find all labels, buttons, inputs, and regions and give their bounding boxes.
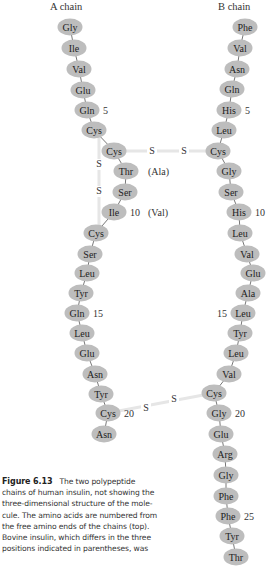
a-chain-residue: Ile bbox=[62, 40, 87, 57]
residue-label: Ile bbox=[109, 207, 120, 218]
figure-label: Figure 6.13 bbox=[2, 477, 52, 486]
residue-label: Ser bbox=[118, 187, 132, 198]
residue-label: Gln bbox=[70, 308, 85, 319]
residue-label: Cys bbox=[210, 146, 226, 157]
b-chain-title: B chain bbox=[218, 1, 251, 12]
residue-label: Gln bbox=[80, 105, 95, 116]
residue-label: Glu bbox=[76, 85, 91, 96]
residue-label: Phe bbox=[219, 491, 235, 502]
residue-number: 20 bbox=[235, 408, 245, 419]
residue-label: Val bbox=[240, 249, 254, 260]
sulfur-atom-label: S bbox=[96, 185, 102, 196]
b-chain-residue: Gly bbox=[217, 163, 242, 180]
residue-label: Tyr bbox=[74, 288, 88, 299]
b-chain-residue: Arg bbox=[213, 446, 238, 463]
residue-number: 10 bbox=[255, 207, 265, 218]
residue-number: 5 bbox=[103, 105, 108, 116]
residue-label: Tyr bbox=[225, 531, 239, 542]
b-chain-residue: His5 bbox=[217, 102, 251, 119]
a-chain-residue: Val bbox=[67, 61, 92, 78]
a-chain-residue: Glu bbox=[71, 82, 96, 99]
a-chain-residue: Cys bbox=[82, 122, 107, 139]
a-chain-residue: Gln5 bbox=[75, 102, 109, 119]
caption-line-0: The two polypeptide bbox=[59, 477, 135, 486]
caption-line-5: Bovine insulin, which differs in the thr… bbox=[2, 533, 151, 542]
a-chain-residue: Thr(Ala) bbox=[114, 163, 170, 180]
b-chain-residue: Ser bbox=[219, 184, 244, 201]
a-chain-residue: Tyr bbox=[69, 285, 94, 302]
residue-label: Leu bbox=[216, 125, 232, 136]
residue-number: 15 bbox=[93, 308, 103, 319]
residue-label: Cys bbox=[100, 408, 116, 419]
caption-line-1: chains of human insulin, not showing the bbox=[2, 488, 154, 497]
a-chain-residue: Asn bbox=[83, 366, 108, 383]
residue-label: Leu bbox=[79, 268, 95, 279]
residue-label: Glu bbox=[80, 348, 95, 359]
residue-label: Val bbox=[222, 369, 236, 380]
a-chain-residue: Gln15 bbox=[65, 305, 104, 322]
residue-label: Phe bbox=[238, 22, 254, 33]
b-chain-residue: Phe bbox=[214, 488, 239, 505]
a-chain-residue: Tyr bbox=[89, 386, 114, 403]
b-chain-residue: Cys bbox=[206, 143, 231, 160]
figure-caption: Figure 6.13 The two polypeptide chains o… bbox=[2, 476, 200, 554]
residue-label: Cys bbox=[88, 228, 104, 239]
sulfur-atom-label: S bbox=[149, 145, 155, 156]
a-chain-residue: Cys bbox=[102, 143, 127, 160]
a-chain-residue: Asn bbox=[92, 426, 117, 443]
residue-number: 15 bbox=[217, 308, 227, 319]
residue-label: Cys bbox=[106, 146, 122, 157]
b-chain-residue: Glu bbox=[209, 426, 234, 443]
caption-line-6: positions indicated in parentheses, was bbox=[2, 544, 148, 553]
residue-label: Val bbox=[72, 64, 86, 75]
b-chain-residue: Phe bbox=[233, 19, 258, 36]
residue-label: Gly bbox=[219, 470, 234, 481]
intrachain-disulfide-bridge bbox=[94, 130, 99, 233]
sulfur-atom-label: S bbox=[181, 145, 187, 156]
bovine-variant-label: (Val) bbox=[148, 207, 168, 219]
b-chain-residue: Val bbox=[217, 366, 242, 383]
b-chain-residue: Leu bbox=[224, 345, 249, 362]
a-chain-residue: Ser bbox=[78, 246, 103, 263]
residue-label: Glu bbox=[214, 429, 229, 440]
a-chain-title: A chain bbox=[50, 1, 83, 12]
residue-label: Gly bbox=[222, 166, 237, 177]
residue-label: Leu bbox=[235, 308, 251, 319]
bovine-variant-label: (Ala) bbox=[148, 166, 169, 178]
residue-number: 20 bbox=[124, 408, 134, 419]
residue-label: Gln bbox=[225, 84, 240, 95]
sulfur-atom-label: S bbox=[143, 402, 149, 413]
residue-label: His bbox=[222, 105, 236, 116]
caption-line-4: the free amino ends of the chains (top). bbox=[2, 522, 149, 531]
b-chain-residue: Gly20 bbox=[207, 405, 246, 422]
residue-number: 25 bbox=[244, 511, 254, 522]
b-chain-residue: Phe25 bbox=[216, 508, 255, 525]
residue-label: Ala bbox=[241, 288, 256, 299]
b-chain-residue: Val bbox=[228, 40, 253, 57]
residue-label: Leu bbox=[228, 348, 244, 359]
b-chain-residue: Gln bbox=[220, 81, 245, 98]
b-chain-residue: Asn bbox=[225, 61, 250, 78]
residue-label: Asn bbox=[229, 64, 245, 75]
a-chain-residue: Cys20 bbox=[96, 405, 135, 422]
a-chain-residue: Ile10(Val) bbox=[102, 204, 169, 221]
residue-label: Arg bbox=[217, 449, 232, 460]
b-chain-residue: Cys bbox=[202, 385, 227, 402]
residue-label: Gly bbox=[63, 22, 78, 33]
a-chain-residue: Glu bbox=[75, 345, 100, 362]
residue-label: Thr bbox=[229, 552, 244, 563]
residue-label: Ser bbox=[83, 249, 97, 260]
residue-label: Val bbox=[233, 43, 247, 54]
residue-label: Gly bbox=[212, 408, 227, 419]
residue-number: 10 bbox=[130, 207, 140, 218]
b-chain-residue: Ala bbox=[236, 285, 261, 302]
residue-label: Leu bbox=[232, 228, 248, 239]
a-chain-residue: Leu bbox=[75, 265, 100, 282]
residue-number: 5 bbox=[245, 105, 250, 116]
a-chain-residue: Gly bbox=[58, 19, 83, 36]
residue-label: Ile bbox=[69, 43, 80, 54]
residue-label: Asn bbox=[96, 429, 112, 440]
b-chain-residue: Tyr bbox=[228, 325, 253, 342]
b-chain-residue: Thr bbox=[224, 549, 249, 566]
b-chain-residue: Gly bbox=[214, 467, 239, 484]
